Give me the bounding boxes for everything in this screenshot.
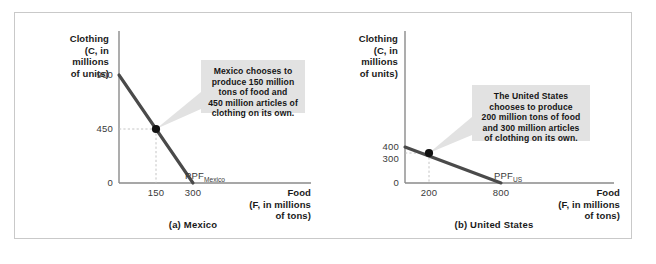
us-xtick-label-800: 800 [481, 187, 521, 198]
us-ytick-label-300: 300 [363, 153, 399, 164]
us-panel-caption: (b) United States [424, 219, 564, 230]
mexico-panel-caption: (a) Mexico [133, 219, 253, 230]
chart-panel-mexico: Clothing (C, in millions of units) 900 4… [15, 13, 324, 240]
mexico-ytick-label-0: 0 [77, 177, 113, 188]
figure-root: Clothing (C, in millions of units) 900 4… [0, 0, 656, 264]
mexico-xtick-label-150: 150 [136, 187, 176, 198]
us-y-axis-title: Clothing (C, in millions of units) [326, 33, 398, 79]
mexico-ppf-label-main: PPF [185, 170, 204, 181]
mexico-callout-leader [156, 92, 201, 129]
mexico-ytick-label-450: 450 [77, 123, 113, 134]
mexico-ytick-label-900: 900 [77, 69, 113, 80]
mexico-ppf-label: PPFMexico [185, 170, 225, 183]
us-callout-leader [429, 117, 472, 153]
mexico-ppf-label-sub: Mexico [204, 176, 225, 183]
us-ppf-line [405, 147, 501, 183]
mexico-x-axis-title: Food (F, in millions of tons) [223, 187, 311, 222]
us-production-point [425, 149, 433, 157]
chart-panel-united-states: Clothing (C, in millions of units) 400 3… [324, 13, 633, 240]
mexico-annotation-callout: Mexico chooses to produce 150 million to… [201, 60, 305, 113]
figure-frame: Clothing (C, in millions of units) 900 4… [14, 12, 632, 239]
us-annotation-callout: The United States chooses to produce 200… [472, 85, 590, 141]
us-ppf-label-sub: US [513, 176, 522, 183]
mexico-production-point [152, 125, 160, 133]
us-ytick-label-400: 400 [363, 141, 399, 152]
us-xtick-label-200: 200 [409, 187, 449, 198]
us-ppf-label: PPFUS [494, 170, 522, 183]
us-x-axis-title: Food (F, in millions of tons) [532, 187, 620, 222]
mexico-xtick-label-300: 300 [173, 187, 213, 198]
us-ppf-label-main: PPF [494, 170, 513, 181]
us-ytick-label-0: 0 [363, 177, 399, 188]
